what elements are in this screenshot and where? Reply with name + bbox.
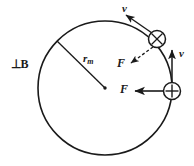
- radius-subscript: m: [87, 57, 93, 66]
- velocity-top-label: v: [122, 3, 127, 14]
- field-direction-label: ⊥B: [11, 58, 28, 70]
- diagram-canvas: [0, 0, 194, 166]
- radius-line: [57, 41, 105, 88]
- orbit-center-dot: [103, 86, 106, 89]
- force-upper-arrow: [131, 47, 153, 63]
- charge-into-page-symbol: [149, 31, 166, 48]
- force-lower-label: F: [120, 83, 128, 95]
- radius-label: rm: [83, 53, 93, 66]
- physics-diagram-figure: ⊥B rm v v F F: [0, 0, 194, 166]
- charge-positive-symbol: [164, 83, 181, 100]
- force-upper-label: F: [117, 57, 125, 69]
- velocity-right-label: v: [179, 48, 184, 59]
